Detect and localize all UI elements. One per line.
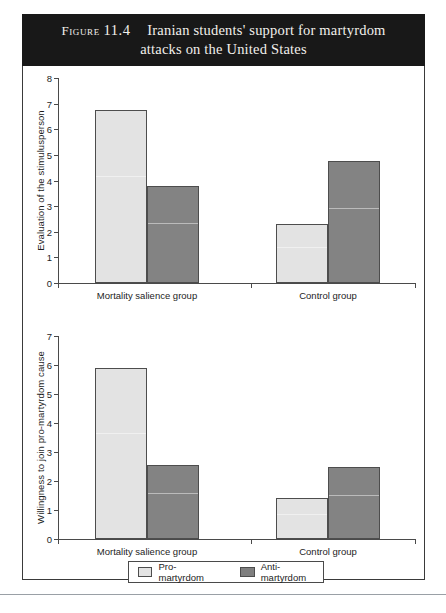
bar-anti-martyrdom [328, 161, 380, 283]
y-axis-tick-label: 6 [38, 124, 52, 135]
legend-item-anti-martyrdom: Anti-martyrdom [240, 561, 323, 583]
bar-anti-martyrdom [147, 465, 199, 539]
x-axis-category-label: Mortality salience group [97, 290, 197, 301]
x-axis-line [58, 539, 415, 540]
y-axis-tick [54, 181, 58, 182]
y-axis-tick-label: 5 [38, 149, 52, 160]
y-axis-tick [54, 481, 58, 482]
x-axis-tick [58, 283, 59, 288]
y-axis-tick-label: 0 [38, 278, 52, 289]
y-axis-tick-label: 0 [38, 534, 52, 545]
y-axis-tick [54, 394, 58, 395]
y-axis-tick [54, 129, 58, 130]
y-axis-tick-label: 8 [38, 73, 52, 84]
y-axis-tick-label: 7 [38, 98, 52, 109]
page-caption-sliver [18, 600, 318, 610]
y-axis-tick [54, 452, 58, 453]
legend-label-anti-martyrdom: Anti-martyrdom [261, 561, 323, 583]
y-axis-line [58, 78, 59, 284]
bar-pro-martyrdom [95, 368, 147, 539]
bar-pro-martyrdom [95, 110, 147, 283]
bar-anti-martyrdom [328, 467, 380, 539]
figure-body: Evaluation of the stimulusperson01234567… [22, 14, 425, 580]
x-axis-tick [251, 283, 252, 288]
y-axis-tick-label: 3 [38, 447, 52, 458]
y-axis-tick-label: 4 [38, 418, 52, 429]
x-axis-tick [58, 539, 59, 544]
legend-item-pro-martyrdom: Pro-martyrdom [138, 561, 219, 583]
y-axis-tick [54, 206, 58, 207]
y-axis-tick-label: 4 [38, 175, 52, 186]
y-axis-tick [54, 232, 58, 233]
x-axis-category-label: Control group [299, 546, 357, 557]
page-rule [0, 594, 446, 595]
y-axis-tick [54, 104, 58, 105]
y-axis-tick-label: 1 [38, 505, 52, 516]
y-axis-tick-label: 2 [38, 476, 52, 487]
y-axis-tick [54, 336, 58, 337]
y-axis-tick-label: 6 [38, 360, 52, 371]
y-axis-tick-label: 5 [38, 389, 52, 400]
x-axis-line [58, 283, 415, 284]
y-axis-tick-label: 1 [38, 252, 52, 263]
x-axis-tick [415, 539, 416, 544]
x-axis-category-label: Control group [299, 290, 357, 301]
chart-evaluation-panel: Evaluation of the stimulusperson01234567… [22, 66, 425, 326]
x-axis-tick [415, 283, 416, 288]
y-axis-tick [54, 365, 58, 366]
y-axis-tick [54, 423, 58, 424]
bar-pro-martyrdom [276, 498, 328, 539]
bar-pro-martyrdom [276, 224, 328, 283]
y-axis-tick [54, 155, 58, 156]
bar-anti-martyrdom [147, 186, 199, 283]
y-axis-line [58, 336, 59, 540]
legend-label-pro-martyrdom: Pro-martyrdom [158, 561, 219, 583]
y-axis-tick-label: 7 [38, 331, 52, 342]
y-axis-tick [54, 257, 58, 258]
chart-legend: Pro-martyrdom Anti-martyrdom [128, 561, 324, 583]
y-axis-tick-label: 2 [38, 226, 52, 237]
chart-willingness-panel: Willingness to join pro-martyrdom cause0… [22, 314, 425, 559]
y-axis-tick-label: 3 [38, 201, 52, 212]
y-axis-tick [54, 510, 58, 511]
x-axis-category-label: Mortality salience group [97, 546, 197, 557]
x-axis-tick [251, 539, 252, 544]
legend-swatch-pro-martyrdom [138, 567, 152, 577]
legend-swatch-anti-martyrdom [240, 567, 254, 577]
y-axis-tick [54, 78, 58, 79]
